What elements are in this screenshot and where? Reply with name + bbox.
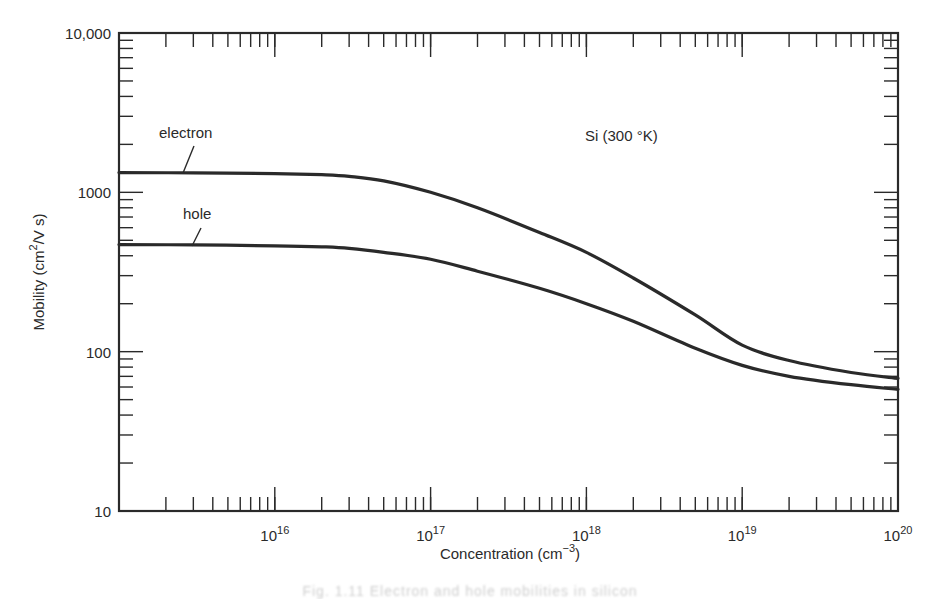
plot-frame [119, 33, 898, 511]
hole-label: hole [183, 205, 211, 222]
x-tick-base: 10 [260, 527, 277, 544]
y-axis-title-main: Mobility (cm [30, 250, 47, 330]
x-tick-labels: 10161017101810191020 [260, 524, 912, 544]
axis-ticks [119, 33, 898, 511]
x-axis-title-exp: −3 [563, 542, 576, 554]
x-tick-base: 10 [416, 527, 433, 544]
x-tick-label: 1016 [260, 524, 289, 544]
x-tick-label: 1019 [728, 524, 757, 544]
x-tick-base: 10 [884, 527, 901, 544]
figure-caption: Fig. 1.11 Electron and hole mobilities i… [0, 583, 940, 599]
x-axis-title-close: ) [575, 545, 580, 562]
x-tick-label: 1020 [884, 524, 913, 544]
x-tick-exponent: 20 [900, 524, 912, 536]
electron-mobility-curve [119, 173, 898, 379]
y-tick-label: 1000 [78, 184, 111, 201]
x-tick-exponent: 18 [589, 524, 601, 536]
data-curves [119, 173, 898, 390]
x-tick-exponent: 19 [744, 524, 756, 536]
x-tick-label: 1018 [572, 524, 601, 544]
y-tick-labels: 10100100010,000 [65, 25, 111, 520]
hole-leader-line [192, 228, 201, 246]
x-tick-exponent: 16 [277, 524, 289, 536]
y-axis-title: Mobility (cm2/V s) [27, 214, 47, 331]
x-axis-title: Concentration (cm−3) [440, 542, 580, 562]
x-tick-base: 10 [728, 527, 745, 544]
y-axis-title-rest: /V s) [30, 214, 47, 245]
y-tick-label: 100 [86, 344, 111, 361]
material-annotation: Si (300 °K) [585, 127, 658, 144]
electron-label: electron [159, 124, 212, 141]
hole-mobility-curve [119, 245, 898, 390]
y-tick-label: 10 [94, 503, 111, 520]
y-tick-label: 10,000 [65, 25, 111, 42]
x-axis-title-main: Concentration (cm [440, 545, 563, 562]
x-tick-label: 1017 [416, 524, 445, 544]
x-tick-exponent: 17 [433, 524, 445, 536]
electron-leader-line [183, 146, 194, 173]
